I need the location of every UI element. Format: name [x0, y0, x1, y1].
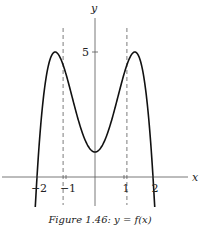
x-tick-label: 1 — [123, 182, 130, 195]
y-tick-label: 5 — [82, 46, 89, 59]
function-graph: −2−1125 x y Figure 1.46: y = f(x) — [0, 0, 201, 230]
x-axis-label: x — [192, 171, 199, 184]
x-tick-label: 2 — [152, 182, 159, 195]
axes — [2, 18, 188, 206]
x-tick-label: −2 — [31, 182, 47, 195]
y-axis-label: y — [90, 2, 98, 15]
figure-caption: Figure 1.46: y = f(x) — [47, 214, 151, 225]
x-tick-label: −1 — [60, 182, 76, 195]
